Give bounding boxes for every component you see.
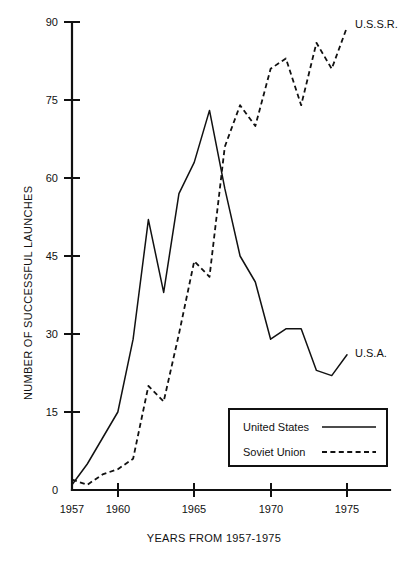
y-axis-title: NUMBER OF SUCCESSFUL LAUNCHES	[22, 186, 34, 400]
x-tick-label-1960: 1960	[106, 503, 130, 515]
x-tick-label-1965: 1965	[182, 503, 206, 515]
x-tick-label-1975: 1975	[335, 503, 359, 515]
y-tick-label-45: 45	[46, 250, 58, 262]
legend-label-soviet-union: Soviet Union	[243, 446, 305, 458]
series-end-label-ussr: U.S.S.R.	[355, 18, 398, 30]
launches-line-chart: NUMBER OF SUCCESSFUL LAUNCHES 90 75 60 4…	[0, 0, 420, 565]
chart-legend: United States Soviet Union	[229, 409, 387, 466]
x-tick-label-1957: 1957	[60, 503, 84, 515]
y-tick-label-30: 30	[46, 328, 58, 340]
y-tick-label-75: 75	[46, 94, 58, 106]
y-axis-tick-labels: 90 75 60 45 30 15 0	[46, 16, 58, 496]
y-tick-label-90: 90	[46, 16, 58, 28]
y-tick-label-60: 60	[46, 172, 58, 184]
y-tick-label-0: 0	[52, 484, 58, 496]
y-tick-label-15: 15	[46, 406, 58, 418]
series-end-label-usa: U.S.A.	[355, 347, 387, 359]
chart-container: NUMBER OF SUCCESSFUL LAUNCHES 90 75 60 4…	[0, 0, 420, 565]
legend-label-united-states: United States	[243, 421, 310, 433]
x-tick-label-1970: 1970	[259, 503, 283, 515]
x-axis-title: YEARS FROM 1957-1975	[147, 532, 281, 544]
x-axis-tick-labels: 1957 1960 1965 1970 1975	[60, 503, 359, 515]
